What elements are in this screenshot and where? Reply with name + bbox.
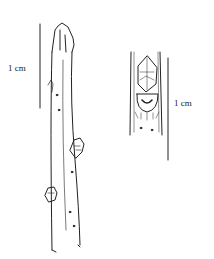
twig-illustration bbox=[45, 23, 84, 252]
left-scale-label: 1 cm bbox=[8, 63, 26, 73]
right-scale-label: 1 cm bbox=[174, 98, 192, 108]
botanical-drawing bbox=[0, 0, 214, 259]
bud-detail-illustration bbox=[130, 52, 162, 135]
